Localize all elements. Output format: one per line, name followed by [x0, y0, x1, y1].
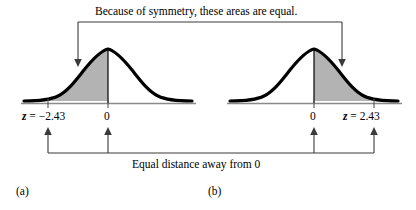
panel-b-graphics	[227, 49, 402, 108]
axis-label-zero-panel-a: 0	[104, 111, 110, 123]
top-caption: Because of symmetry, these areas are equ…	[95, 6, 297, 18]
up-arrow-head-4	[370, 127, 378, 135]
down-arrow-head-right	[338, 59, 346, 67]
panel-label-b: (b)	[208, 186, 221, 198]
axis-label-z-2-43: z = 2.43	[343, 111, 380, 123]
bottom-annotation-bracket	[48, 133, 374, 153]
panel-label-a: (a)	[16, 186, 29, 198]
z-value-text-left: = −2.43	[26, 110, 65, 122]
up-arrow-head-1	[44, 127, 52, 135]
axis-label-zero-panel-b: 0	[310, 111, 316, 123]
down-arrow-head-left	[74, 59, 82, 67]
figure-graphics	[0, 0, 416, 210]
up-arrow-head-3	[310, 127, 318, 135]
normal-curve-symmetry-figure: Because of symmetry, these areas are equ…	[0, 0, 416, 210]
panel-a-graphics	[21, 49, 196, 108]
z-value-text-right: = 2.43	[347, 110, 379, 122]
up-arrow-head-2	[104, 127, 112, 135]
bottom-caption: Equal distance away from 0	[132, 159, 260, 171]
axis-label-z-negative-2-43: z = −2.43	[22, 111, 65, 123]
